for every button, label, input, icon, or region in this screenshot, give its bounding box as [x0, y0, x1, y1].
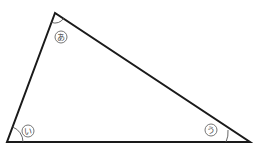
- angle-arc-u: [226, 130, 228, 142]
- angle-arc-i: [13, 127, 23, 142]
- angle-label-i-text: い: [24, 127, 32, 136]
- angle-label-a-text: あ: [57, 33, 65, 42]
- angle-label-u: う: [205, 124, 217, 136]
- angle-label-i: い: [22, 125, 34, 137]
- angle-label-u-text: う: [207, 126, 215, 135]
- triangle-outline: [7, 13, 250, 142]
- triangle-diagram: あ い う: [0, 0, 260, 153]
- angle-label-a: あ: [55, 31, 67, 43]
